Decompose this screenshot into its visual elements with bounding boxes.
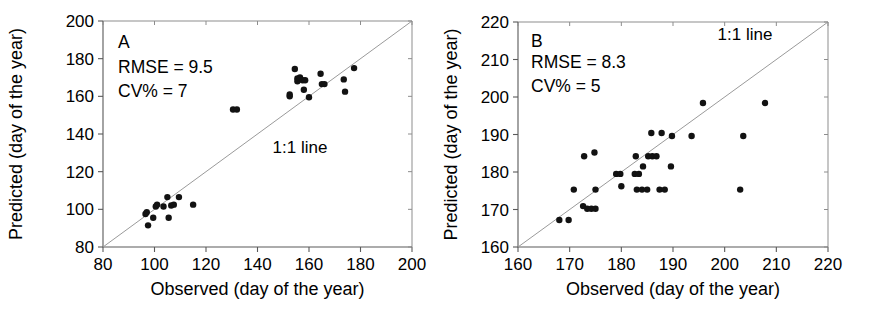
data-point (633, 153, 639, 159)
one-to-one-line-label: 1:1 line (273, 138, 328, 157)
data-point (644, 186, 650, 192)
data-point (669, 133, 675, 139)
panel-b-plot: 1601701801902002102201601701801902002102… (435, 0, 870, 325)
data-point (648, 130, 654, 136)
data-point (306, 94, 312, 100)
data-point (581, 153, 587, 159)
data-point (176, 194, 182, 200)
one-to-one-line-label: 1:1 line (718, 25, 773, 44)
data-point (150, 215, 156, 221)
data-point (556, 217, 562, 223)
data-point (737, 186, 743, 192)
data-point (286, 93, 292, 99)
data-point (164, 194, 170, 200)
rmse-annotation: RMSE = 9.5 (118, 57, 213, 77)
y-tick-label-200: 200 (481, 88, 509, 107)
data-point (171, 201, 177, 207)
data-point (617, 171, 623, 177)
x-tick-label-160: 160 (504, 255, 532, 274)
data-point (592, 206, 598, 212)
data-point (301, 87, 307, 93)
y-axis-title: Predicted (day of the year) (441, 28, 461, 240)
rmse-annotation: RMSE = 8.3 (531, 52, 626, 72)
data-point (144, 209, 150, 215)
x-tick-label-220: 220 (814, 255, 842, 274)
data-point (762, 100, 768, 106)
x-tick-label-200: 200 (710, 255, 738, 274)
panel-a-plot: 8010012014016018020080100120140160180200… (0, 0, 435, 325)
panel-a: 8010012014016018020080100120140160180200… (0, 0, 435, 325)
x-tick-label-140: 140 (243, 255, 271, 274)
data-point (351, 65, 357, 71)
data-point (640, 163, 646, 169)
x-tick-label-210: 210 (762, 255, 790, 274)
x-axis-title: Observed (day of the year) (150, 279, 364, 299)
data-point (160, 203, 166, 209)
x-tick-label-160: 160 (295, 255, 323, 274)
y-tick-label-170: 170 (481, 201, 509, 220)
data-point (636, 171, 642, 177)
data-point (302, 77, 308, 83)
y-tick-label-180: 180 (66, 50, 94, 69)
data-point (662, 186, 668, 192)
data-point (658, 130, 664, 136)
x-tick-label-200: 200 (398, 255, 426, 274)
panel-b: 1601701801902002102201601701801902002102… (435, 0, 870, 325)
data-point (292, 66, 298, 72)
y-axis-title: Predicted (day of the year) (6, 28, 26, 240)
y-tick-label-180: 180 (481, 163, 509, 182)
data-point (341, 76, 347, 82)
panel-letter: B (531, 31, 543, 51)
data-point (342, 88, 348, 94)
y-tick-label-100: 100 (66, 200, 94, 219)
y-tick-label-210: 210 (481, 51, 509, 70)
cv-annotation: CV% = 5 (531, 76, 601, 96)
y-tick-label-120: 120 (66, 163, 94, 182)
x-tick-label-180: 180 (346, 255, 374, 274)
x-tick-label-180: 180 (607, 255, 635, 274)
y-tick-label-220: 220 (481, 13, 509, 32)
data-point (565, 217, 571, 223)
y-tick-label-160: 160 (481, 238, 509, 257)
data-point (700, 100, 706, 106)
y-tick-label-200: 200 (66, 12, 94, 31)
data-point (571, 186, 577, 192)
data-point (740, 133, 746, 139)
y-tick-label-80: 80 (75, 238, 94, 257)
data-point (190, 201, 196, 207)
data-point (317, 71, 323, 77)
data-point (653, 153, 659, 159)
data-point (592, 186, 598, 192)
data-point (688, 133, 694, 139)
x-axis-title: Observed (day of the year) (566, 279, 780, 299)
x-tick-label-190: 190 (659, 255, 687, 274)
cv-annotation: CV% = 7 (118, 81, 188, 101)
data-point (591, 149, 597, 155)
data-point (234, 106, 240, 112)
data-point (154, 201, 160, 207)
x-tick-label-120: 120 (192, 255, 220, 274)
x-tick-label-170: 170 (555, 255, 583, 274)
data-point (668, 163, 674, 169)
y-tick-label-140: 140 (66, 125, 94, 144)
figure-container: 8010012014016018020080100120140160180200… (0, 0, 870, 325)
panel-letter: A (118, 32, 130, 52)
data-point (618, 183, 624, 189)
data-point (165, 215, 171, 221)
y-tick-label-160: 160 (66, 87, 94, 106)
data-point (145, 222, 151, 228)
data-point (321, 81, 327, 87)
y-tick-label-190: 190 (481, 126, 509, 145)
x-tick-label-80: 80 (94, 255, 113, 274)
x-tick-label-100: 100 (140, 255, 168, 274)
